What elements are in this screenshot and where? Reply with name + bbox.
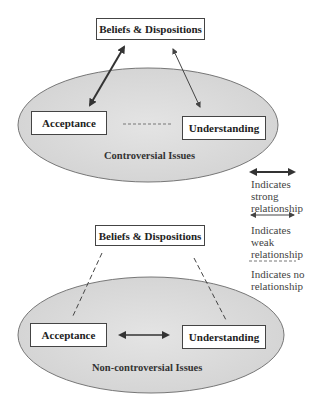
top-understanding-box: Understanding (182, 116, 266, 140)
bottom-understanding-label: Understanding (189, 331, 259, 343)
bottom-beliefs-label: Beliefs & Dispositions (99, 230, 202, 242)
non-controversial-issues-label: Non-controversial Issues (92, 362, 202, 373)
bottom-acceptance-box: Acceptance (30, 323, 107, 347)
controversial-issues-label: Controversial Issues (104, 150, 195, 161)
top-acceptance-box: Acceptance (31, 111, 107, 135)
top-understanding-label: Understanding (189, 122, 259, 134)
top-beliefs-box: Beliefs & Dispositions (96, 18, 205, 40)
top-beliefs-label: Beliefs & Dispositions (99, 23, 202, 35)
legend-weak-text: Indicates weak relationship (251, 224, 313, 260)
bottom-understanding-box: Understanding (182, 325, 266, 349)
bottom-acceptance-label: Acceptance (42, 329, 96, 341)
bottom-beliefs-box: Beliefs & Dispositions (95, 225, 205, 246)
legend-none-text: Indicates no relationship (251, 268, 319, 292)
legend-strong-text: Indicates strong relationship (251, 178, 313, 214)
top-acceptance-label: Acceptance (42, 117, 96, 129)
